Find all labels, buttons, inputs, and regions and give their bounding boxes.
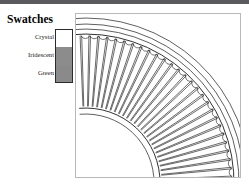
swatches-title: Swatches bbox=[7, 13, 53, 25]
radial-fan-drawing bbox=[76, 14, 240, 177]
swatch-label-green: Green bbox=[38, 68, 54, 78]
swatch-chip-iridescent[interactable] bbox=[55, 47, 73, 65]
top-rule-divider bbox=[0, 0, 249, 4]
page-canvas: Swatches Crystal Iridescent Green bbox=[0, 0, 249, 185]
swatch-row-iridescent[interactable]: Iridescent bbox=[0, 47, 76, 65]
swatch-chip-green[interactable] bbox=[55, 65, 73, 83]
figure-panel bbox=[75, 13, 241, 178]
fan-geometry bbox=[76, 18, 240, 177]
swatch-chip-crystal[interactable] bbox=[55, 29, 73, 47]
swatch-row-crystal[interactable]: Crystal bbox=[0, 29, 76, 47]
swatch-label-iridescent: Iridescent bbox=[28, 50, 54, 60]
swatch-list: Crystal Iridescent Green bbox=[0, 29, 76, 83]
swatch-label-crystal: Crystal bbox=[35, 32, 54, 42]
swatches-legend: Swatches Crystal Iridescent Green bbox=[0, 11, 76, 91]
swatch-row-green[interactable]: Green bbox=[0, 65, 76, 83]
